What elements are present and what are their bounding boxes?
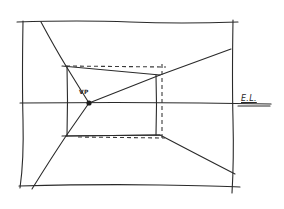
eye-level-label: E.L. (241, 94, 257, 103)
back-face-bottom-edge (78, 137, 165, 138)
frame-top-edge (17, 21, 238, 23)
frame-bottom-edge (19, 185, 240, 187)
eye-level-line (20, 103, 271, 105)
front-face-top-edge (62, 66, 160, 75)
orthogonal-bottom-right (66, 135, 235, 174)
orthogonal-top-right (89, 49, 231, 103)
vanishing-point-marker (86, 100, 91, 105)
frame-left-edge (20, 21, 23, 188)
front-face-bottom-edge (62, 135, 160, 136)
perspective-sketch (0, 0, 284, 209)
vanishing-point-label: VP (79, 88, 89, 95)
orthogonal-bottom-left (32, 103, 89, 189)
front-face-right-edge (156, 75, 157, 135)
frame-right-edge (232, 20, 233, 193)
front-face-left-edge (67, 66, 68, 136)
back-face-top-edge (66, 66, 166, 67)
